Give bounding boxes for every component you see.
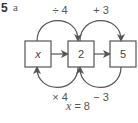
inverse-op-label: − 3 bbox=[93, 91, 109, 103]
answer: x = 8 bbox=[66, 99, 90, 114]
box-2-label: 2 bbox=[78, 48, 84, 60]
forward-arc-arrow-icon bbox=[37, 21, 78, 41]
forward-op-label: + 3 bbox=[93, 4, 109, 16]
answer-value: = 8 bbox=[71, 100, 90, 112]
inverse-arc-arrow-icon bbox=[80, 67, 121, 87]
forward-arc-arrow-icon bbox=[80, 21, 121, 41]
inverse-arc-arrow-icon bbox=[37, 67, 78, 87]
box-5-label: 5 bbox=[120, 48, 126, 60]
box-x-label: x bbox=[34, 48, 41, 60]
forward-op-label: ÷ 4 bbox=[52, 4, 67, 16]
